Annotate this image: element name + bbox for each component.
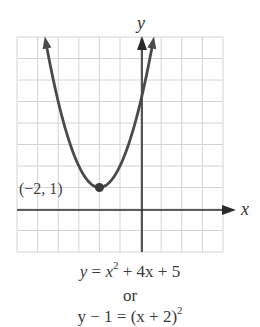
eq-exponent: 2: [113, 259, 119, 271]
coordinate-graph: (−2, 1) x y: [0, 0, 260, 260]
x-axis-label: x: [240, 199, 249, 219]
equation-connector: or: [0, 287, 260, 304]
x-axis-arrow-icon: [222, 205, 236, 215]
vertex-point: [95, 183, 104, 192]
grid-lines: [17, 37, 223, 252]
eq-rest: + 4x + 5: [119, 262, 181, 281]
eq-vertex-body: y − 1 = (x + 2): [77, 307, 177, 326]
eq-vertex-exponent: 2: [177, 304, 183, 316]
equation-vertex-form: y − 1 = (x + 2)2: [0, 308, 260, 325]
y-axis-label: y: [135, 13, 145, 33]
curve-right-arrow-icon: [147, 37, 156, 50]
curve-left-arrow-icon: [43, 37, 52, 50]
y-axis-arrow-icon: [137, 36, 147, 50]
eq-x: x: [105, 262, 113, 281]
eq-equals: =: [87, 262, 105, 281]
vertex-label: (−2, 1): [19, 180, 63, 198]
equation-standard-form: y = x2 + 4x + 5: [0, 263, 260, 280]
